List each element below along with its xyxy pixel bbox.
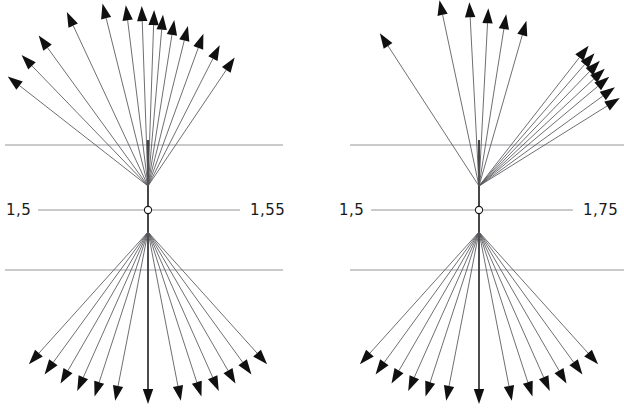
arrow-1-0-1 [438, 0, 479, 186]
arrowhead [173, 385, 183, 401]
arrowhead [167, 20, 177, 36]
arrow-1-0-3 [479, 8, 493, 186]
arrow-0-1-7 [113, 232, 148, 401]
arrowhead [208, 45, 219, 61]
arrowhead [392, 368, 404, 384]
arrowhead [604, 98, 619, 110]
arrowhead [380, 33, 393, 48]
arrowhead [444, 385, 454, 401]
arrow-shaft [148, 40, 184, 186]
arrow-0-1-10 [61, 232, 149, 384]
arrow-1-0-6 [479, 46, 589, 186]
arrow-1-0-9 [479, 69, 605, 186]
arrowhead [584, 350, 598, 365]
arrow-0-1-0 [148, 232, 267, 364]
right-panel-upper-fan [380, 0, 620, 186]
arrow-shaft [148, 232, 243, 362]
arrow-0-1-2 [148, 232, 236, 384]
arrowhead [208, 375, 219, 391]
arrow-0-1-12 [29, 232, 148, 364]
arrowhead [474, 389, 484, 404]
arrow-shaft [384, 232, 479, 362]
arrow-shaft [479, 58, 579, 186]
arrow-1-0-11 [479, 87, 615, 186]
left-panel-upper-fan [8, 4, 235, 186]
arrow-shaft [443, 15, 479, 186]
arrow-shaft [73, 26, 148, 186]
arrowhead [122, 5, 132, 21]
arrow-shaft [479, 232, 574, 362]
arrowhead [143, 389, 153, 404]
arrow-shaft [399, 232, 479, 371]
arrow-0-0-6 [137, 6, 148, 186]
arrowhead [192, 381, 202, 397]
arrow-shaft [47, 48, 148, 186]
arrow-1-1-10 [392, 232, 480, 384]
arrow-1-0-7 [479, 53, 594, 186]
arrow-0-0-3 [67, 12, 148, 186]
arrowhead [67, 12, 78, 28]
arrowhead [482, 8, 492, 23]
arrow-0-0-4 [101, 4, 148, 186]
arrowhead [94, 381, 104, 397]
arrowhead [438, 0, 448, 16]
arrow-1-1-11 [376, 232, 479, 374]
arrow-shaft [20, 86, 148, 186]
arrow-1-1-3 [479, 232, 550, 391]
arrowhead [179, 26, 189, 42]
left-panel-left-label: 1,5 [6, 201, 31, 219]
arrowhead [148, 10, 158, 25]
arrow-shaft [479, 232, 588, 353]
arrow-1-1-2 [479, 232, 567, 384]
arrowhead [376, 359, 389, 374]
arrow-shaft [32, 66, 148, 186]
arrow-shaft [479, 79, 594, 186]
arrow-0-0-13 [148, 58, 235, 187]
arrowhead [77, 375, 88, 391]
arrow-1-0-10 [479, 77, 609, 186]
figure-canvas: 1,51,551,51,75 [0, 0, 624, 415]
arrow-shaft [148, 232, 228, 371]
arrow-1-1-5 [479, 232, 514, 401]
arrow-0-1-11 [45, 232, 148, 374]
arrow-1-1-12 [360, 232, 479, 364]
arrow-shaft [388, 46, 479, 186]
arrow-0-1-1 [148, 232, 251, 374]
arrowhead [569, 359, 582, 374]
right-panel-origin-marker [475, 206, 482, 213]
arrow-shaft [53, 232, 148, 362]
arrowhead [8, 76, 23, 89]
arrow-1-1-0 [479, 232, 598, 364]
arrow-1-1-9 [408, 232, 479, 391]
arrowhead [39, 36, 52, 51]
arrowhead [113, 385, 123, 401]
arrow-shaft [106, 18, 148, 186]
arrowhead [224, 368, 236, 384]
arrow-shaft [83, 232, 148, 377]
right-panel-right-label: 1,75 [583, 201, 618, 219]
left-panel-lower-fan [29, 232, 267, 404]
arrow-shaft [148, 232, 257, 353]
arrowhead [425, 381, 435, 397]
arrowhead [157, 15, 167, 30]
vector-fan-figure: 1,51,551,51,75 [0, 0, 624, 415]
arrowhead [523, 381, 533, 397]
arrow-0-1-6 [143, 232, 153, 404]
left-panel-right-label: 1,55 [250, 201, 285, 219]
arrowhead [193, 34, 203, 50]
arrowhead [539, 375, 550, 391]
arrowhead [555, 368, 567, 384]
arrow-shaft [68, 232, 148, 371]
arrowhead [222, 58, 235, 73]
arrowhead [465, 2, 475, 17]
arrow-shaft [148, 232, 213, 377]
arrow-shaft [479, 64, 585, 186]
arrow-1-1-6 [474, 232, 484, 404]
arrow-0-0-9 [148, 20, 177, 186]
right-panel-left-label: 1,5 [339, 201, 364, 219]
arrowhead [137, 6, 147, 21]
arrow-1-0-0 [380, 33, 479, 186]
arrow-shaft [39, 232, 148, 353]
arrowhead [517, 21, 527, 37]
arrowhead [253, 350, 267, 365]
